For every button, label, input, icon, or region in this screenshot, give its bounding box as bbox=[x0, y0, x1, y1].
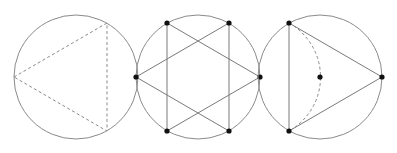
right-panel bbox=[258, 15, 385, 139]
vertex-dot bbox=[226, 128, 231, 133]
vertex-dot bbox=[286, 20, 291, 25]
middle-triangle-right bbox=[167, 23, 260, 131]
geometry-diagram bbox=[0, 0, 397, 153]
left-dashed-triangle bbox=[14, 23, 107, 131]
left-circle bbox=[14, 15, 138, 139]
vertex-dot bbox=[286, 128, 291, 133]
vertex-dot bbox=[379, 74, 384, 79]
vertex-dot bbox=[164, 128, 169, 133]
right-triangle bbox=[289, 23, 382, 131]
vertex-dot bbox=[133, 74, 138, 79]
right-dashed-arc bbox=[289, 23, 321, 131]
middle-circle bbox=[136, 15, 260, 139]
middle-panel bbox=[133, 15, 262, 139]
vertex-dot bbox=[226, 20, 231, 25]
vertex-dot bbox=[164, 20, 169, 25]
center-dot bbox=[317, 74, 322, 79]
left-panel bbox=[14, 15, 138, 139]
middle-triangle-left bbox=[136, 23, 229, 131]
